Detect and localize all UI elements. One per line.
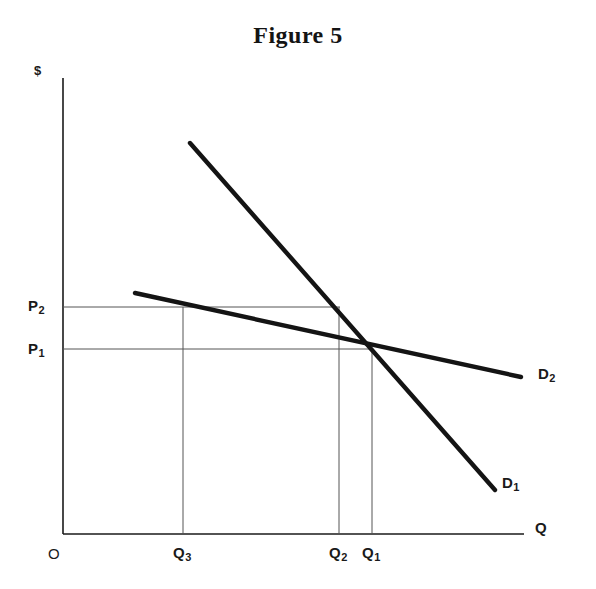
price-label-p1-subscript: 1 — [39, 347, 45, 359]
price-label-p2-subscript: 2 — [39, 304, 45, 316]
quantity-label-q1: Q1 — [362, 544, 380, 561]
curve-label-d2: D2 — [538, 365, 555, 382]
x-axis-label: Q — [535, 519, 547, 536]
origin-label: O — [48, 545, 60, 562]
curve-label-d2-base: D — [538, 365, 549, 382]
quantity-label-q2-subscript: 2 — [341, 551, 347, 563]
quantity-label-q2: Q2 — [329, 544, 347, 561]
curve-label-d1-base: D — [502, 474, 513, 491]
curve-label-d1-subscript: 1 — [513, 481, 519, 493]
curve-label-d2-subscript: 2 — [549, 372, 555, 384]
quantity-label-q1-base: Q — [362, 544, 374, 561]
demand-curve-d2 — [135, 293, 521, 377]
quantity-label-q3-subscript: 3 — [185, 551, 191, 563]
price-label-p2: P2 — [28, 297, 44, 314]
price-label-p2-base: P — [28, 297, 38, 314]
demand-curve-plot — [0, 0, 596, 589]
quantity-label-q2-base: Q — [329, 544, 341, 561]
price-label-p1: P1 — [28, 340, 44, 357]
quantity-label-q3-base: Q — [173, 544, 185, 561]
quantity-label-q3: Q3 — [173, 544, 191, 561]
y-axis-label: $ — [34, 63, 41, 78]
figure-container: Figure 5 $ Q O P2 P1 Q3 Q2 Q1 D — [0, 0, 596, 589]
curve-label-d1: D1 — [502, 474, 519, 491]
quantity-label-q1-subscript: 1 — [374, 551, 380, 563]
price-label-p1-base: P — [28, 340, 38, 357]
